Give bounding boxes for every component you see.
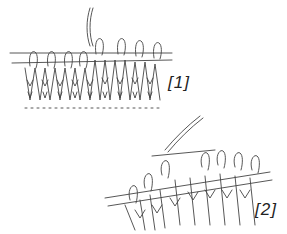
step-1-label: [1] bbox=[168, 73, 190, 93]
step-2-illustration bbox=[105, 116, 272, 230]
step-2-label: [2] bbox=[255, 200, 277, 220]
knitting-diagram bbox=[0, 0, 287, 234]
step-1-illustration bbox=[10, 8, 172, 108]
